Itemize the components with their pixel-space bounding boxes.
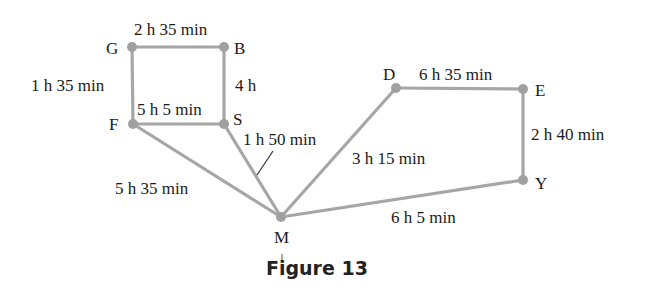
edge-G-F <box>132 47 133 124</box>
edge-weight-M-D: 3 h 15 min <box>352 150 425 167</box>
node-M <box>276 212 286 222</box>
node-label-S: S <box>233 111 242 128</box>
graph-edges-layer <box>0 0 657 294</box>
node-label-G: G <box>106 40 118 57</box>
node-F <box>128 119 138 129</box>
node-S <box>219 119 229 129</box>
edge-weight-G-F: 1 h 35 min <box>31 77 104 94</box>
edge-weight-E-Y: 2 h 40 min <box>531 126 604 143</box>
graph-figure: G B F S M D E Y 2 h 35 min 1 h 35 min 4 … <box>0 0 657 294</box>
node-Y <box>518 175 528 185</box>
figure-caption: Figure 13 <box>266 259 368 278</box>
leader-line-S-M <box>257 151 273 175</box>
node-G <box>127 42 137 52</box>
edge-weight-F-S: 5 h 5 min <box>137 101 202 118</box>
edge-weight-B-S: 4 h <box>235 77 256 94</box>
node-B <box>219 42 229 52</box>
edge-weight-D-E: 6 h 35 min <box>419 66 492 83</box>
node-label-B: B <box>234 40 245 57</box>
node-label-E: E <box>535 82 545 99</box>
edge-weight-F-M: 5 h 35 min <box>115 180 188 197</box>
node-E <box>518 84 528 94</box>
node-label-D: D <box>383 66 395 83</box>
edge-weight-G-B: 2 h 35 min <box>134 21 207 38</box>
edge-D-E <box>396 88 523 89</box>
node-label-Y: Y <box>535 175 547 192</box>
node-D <box>391 83 401 93</box>
edge-weight-S-M: 1 h 50 min <box>243 131 316 148</box>
node-label-M: M <box>274 229 289 246</box>
node-label-F: F <box>109 116 118 133</box>
edge-weight-M-Y: 6 h 5 min <box>391 209 456 226</box>
